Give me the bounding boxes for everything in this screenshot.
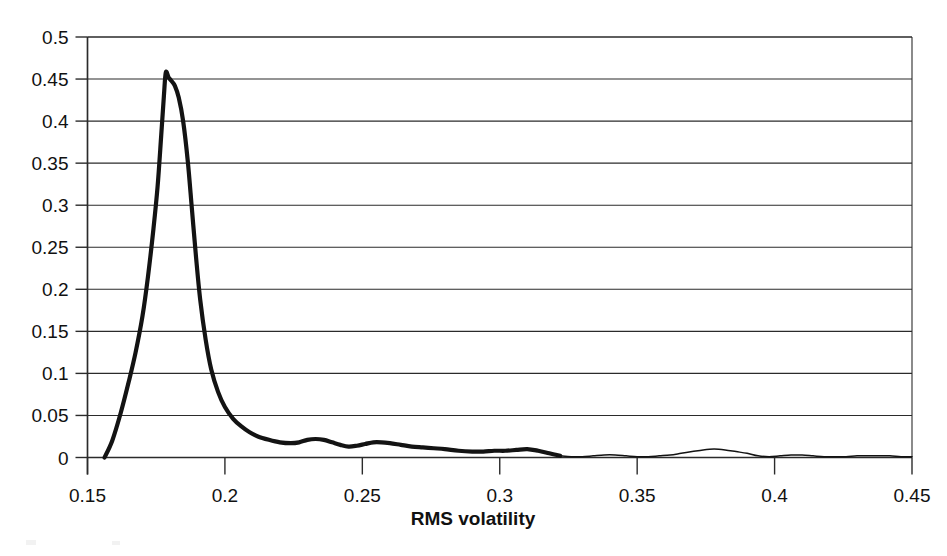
y-tick-label: 0 xyxy=(58,448,69,469)
x-tick-label: 0.3 xyxy=(487,485,513,506)
axes-group xyxy=(88,37,913,475)
y-tick-label: 0.05 xyxy=(32,405,69,426)
x-tick-label: 0.2 xyxy=(212,485,238,506)
series-line-main xyxy=(105,72,561,458)
scan-artifact xyxy=(26,540,36,545)
series-group xyxy=(105,72,912,458)
y-tick-labels-group: 00.050.10.150.20.250.30.350.40.450.5 xyxy=(32,27,69,469)
y-tick-label: 0.45 xyxy=(32,69,69,90)
y-tick-label: 0.2 xyxy=(42,279,68,300)
y-tick-label: 0.1 xyxy=(42,363,68,384)
x-tick-label: 0.25 xyxy=(344,485,381,506)
y-tick-label: 0.25 xyxy=(32,237,69,258)
tickmarks-group xyxy=(76,37,913,475)
y-tick-label: 0.3 xyxy=(42,195,68,216)
x-tick-label: 0.45 xyxy=(894,485,931,506)
x-tick-label: 0.15 xyxy=(69,485,106,506)
y-tick-label: 0.4 xyxy=(42,111,69,132)
x-tick-label: 0.4 xyxy=(761,485,788,506)
rms-volatility-line-chart: 00.050.10.150.20.250.30.350.40.450.5 0.1… xyxy=(0,0,947,556)
x-tick-labels-group: 0.150.20.250.30.350.40.45 xyxy=(69,485,930,506)
series-line-tail xyxy=(560,449,912,457)
scan-artifact-2 xyxy=(112,541,120,545)
y-tick-label: 0.15 xyxy=(32,321,69,342)
gridlines-group xyxy=(88,37,913,458)
y-tick-label: 0.5 xyxy=(42,27,68,48)
y-tick-label: 0.35 xyxy=(32,153,69,174)
chart-container: 00.050.10.150.20.250.30.350.40.450.5 0.1… xyxy=(0,0,947,556)
x-tick-label: 0.35 xyxy=(619,485,656,506)
x-axis-title: RMS volatility xyxy=(411,508,536,529)
